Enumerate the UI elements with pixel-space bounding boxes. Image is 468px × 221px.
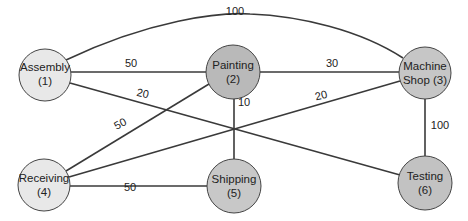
- edge-label-3-6: 100: [431, 119, 449, 131]
- node-circle: [206, 45, 260, 99]
- node-number: (1): [38, 75, 52, 87]
- edge-label-1-3: 100: [226, 5, 244, 17]
- node-label: Painting: [212, 59, 254, 71]
- node-shipping: Shipping (5): [207, 159, 261, 213]
- node-number: (6): [418, 184, 432, 196]
- node-label: Shipping: [212, 173, 257, 185]
- edge-label-2-3: 30: [326, 57, 338, 69]
- node-number: Shop (3): [403, 74, 447, 86]
- edge-label-1-2: 50: [125, 57, 137, 69]
- node-circle: [398, 156, 452, 210]
- node-circle: [18, 159, 70, 211]
- node-label: Assembly: [20, 61, 70, 73]
- edge-label-3-4: 20: [314, 88, 329, 103]
- node-circle: [399, 47, 451, 99]
- node-testing: Testing (6): [398, 156, 452, 210]
- node-circle: [207, 159, 261, 213]
- node-label: Testing: [407, 170, 443, 182]
- node-receiving: Receiving (4): [18, 159, 70, 211]
- node-number: (4): [37, 186, 51, 198]
- node-painting: Painting (2): [206, 45, 260, 99]
- node-label: Machine: [403, 60, 446, 72]
- node-assembly: Assembly (1): [19, 49, 71, 101]
- edge-label-4-5: 50: [124, 181, 136, 193]
- edge-label-2-4: 50: [112, 115, 128, 131]
- node-machine-shop: Machine Shop (3): [399, 47, 451, 99]
- edge-label-1-6: 20: [136, 86, 150, 100]
- node-number: (5): [227, 187, 241, 199]
- node-label: Receiving: [19, 172, 70, 184]
- graph-diagram: 100 50 20 30 50 10 20 100 50 Assembly (1…: [0, 0, 468, 221]
- node-number: (2): [226, 73, 240, 85]
